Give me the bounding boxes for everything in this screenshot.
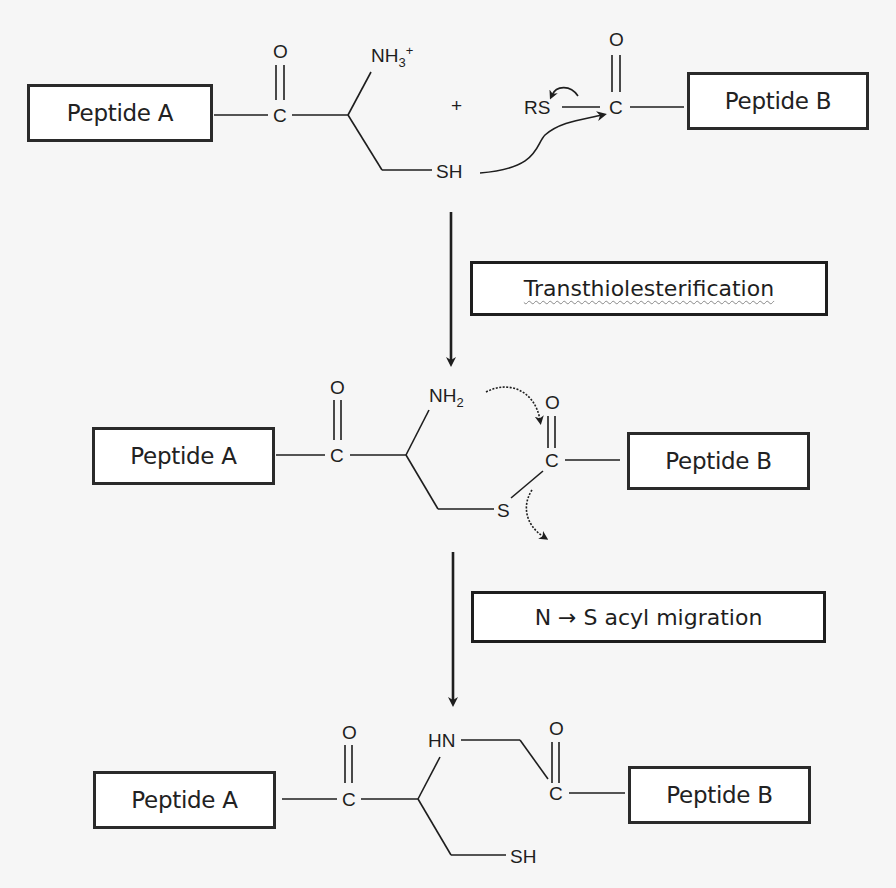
transthiolesterification-label: Transthiolesterification — [524, 276, 774, 301]
peptide-b-label: Peptide B — [725, 88, 831, 114]
sulfur-leaving-arrow — [526, 490, 544, 537]
stage3-bonds — [282, 740, 625, 855]
thiol-attack-arrow — [480, 115, 602, 173]
peptide-a-label: Peptide A — [130, 443, 236, 469]
peptide-b-carbonyl-carbon: C — [545, 451, 559, 470]
stage2-bonds — [276, 400, 620, 509]
carbonyl-oxygen: O — [273, 42, 288, 61]
peptide-b-box-stage3: Peptide B — [628, 766, 811, 824]
rs-leaving-arrow — [552, 88, 578, 96]
amine-group: NH2 — [429, 386, 464, 409]
peptide-a-label: Peptide A — [67, 100, 173, 126]
carbonyl-oxygen: O — [330, 378, 345, 397]
peptide-b-label: Peptide B — [665, 448, 771, 474]
thioester-rs: RS — [524, 98, 550, 117]
peptide-b-box-stage1: Peptide B — [687, 72, 869, 130]
carbonyl-carbon: C — [342, 790, 356, 809]
thiol-group: SH — [436, 162, 462, 181]
amine-attack-arrow — [486, 387, 540, 420]
peptide-b-carbonyl-carbon: C — [609, 98, 623, 117]
peptide-a-box-stage2: Peptide A — [92, 427, 275, 485]
carbonyl-oxygen: O — [342, 723, 357, 742]
ammonium-group: NH3+ — [371, 44, 413, 69]
transthiolesterification-step-box: Transthiolesterification — [470, 261, 828, 316]
peptide-a-label: Peptide A — [131, 787, 237, 813]
peptide-b-carbonyl-oxygen: O — [549, 719, 564, 738]
acyl-migration-label: N → S acyl migration — [535, 605, 763, 630]
thiol-group: SH — [510, 847, 536, 866]
plus-sign: + — [451, 96, 462, 115]
acyl-migration-step-box: N → S acyl migration — [471, 591, 826, 643]
peptide-b-carbonyl-carbon: C — [549, 784, 563, 803]
cropped-caption-remnant — [380, 880, 740, 888]
carbonyl-carbon: C — [330, 446, 344, 465]
peptide-a-box-stage3: Peptide A — [93, 771, 276, 829]
peptide-b-label: Peptide B — [666, 782, 772, 808]
peptide-b-carbonyl-oxygen: O — [609, 30, 624, 49]
amide-nitrogen: HN — [428, 731, 455, 750]
peptide-b-carbonyl-oxygen: O — [545, 393, 560, 412]
carbonyl-carbon: C — [273, 106, 287, 125]
thioester-sulfur: S — [497, 501, 510, 520]
peptide-a-box-stage1: Peptide A — [27, 84, 213, 142]
peptide-b-box-stage2: Peptide B — [627, 432, 810, 490]
